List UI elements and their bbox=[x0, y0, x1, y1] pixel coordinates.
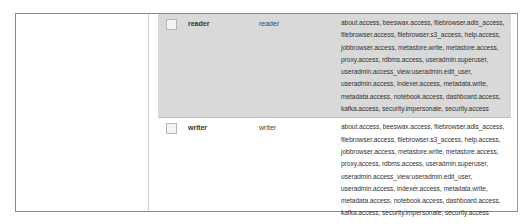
privileges-line: useradmin.access_view:useradmin.edit_use… bbox=[341, 171, 507, 183]
privileges-line: filebrowser.access, filebrowser.s3_acces… bbox=[341, 134, 507, 146]
privileges-line: useradmin.access, indexer.access, metada… bbox=[341, 78, 507, 90]
role-privileges: about.access, beeswax.access, filebrowse… bbox=[341, 118, 511, 221]
privileges-line: kafka.access, security.impersonate, secu… bbox=[341, 207, 507, 219]
roles-panel: reader reader about.access, beeswax.acce… bbox=[15, 13, 518, 212]
role-description: writer bbox=[259, 118, 341, 131]
privileges-line: useradmin.access_view:useradmin.edit_use… bbox=[341, 66, 507, 78]
privileges-line: proxy.access, rdbms.access, useradmin.su… bbox=[341, 158, 507, 170]
privileges-line: jobbrowser.access, metastore.write, meta… bbox=[341, 146, 507, 158]
privileges-line: jobbrowser.access, metastore.write, meta… bbox=[341, 42, 507, 54]
role-name[interactable]: reader bbox=[188, 14, 259, 27]
table-row-reader[interactable]: reader reader about.access, beeswax.acce… bbox=[158, 14, 511, 117]
roles-table: reader reader about.access, beeswax.acce… bbox=[158, 14, 511, 222]
row-checkbox-reader[interactable] bbox=[166, 19, 177, 30]
privileges-line: about.access, beeswax.access, filebrowse… bbox=[341, 121, 507, 133]
row-checkbox-writer[interactable] bbox=[166, 123, 177, 134]
role-privileges: about.access, beeswax.access, filebrowse… bbox=[341, 14, 511, 117]
privileges-line: kafka.access, security.impersonate, secu… bbox=[341, 103, 507, 115]
privileges-line: proxy.access, rdbms.access, useradmin.su… bbox=[341, 54, 507, 66]
table-row-writer[interactable]: writer writer about.access, beeswax.acce… bbox=[158, 117, 511, 221]
privileges-line: metadata.access, notebook.access, dashbo… bbox=[341, 195, 507, 207]
privileges-line: metadata.access, notebook.access, dashbo… bbox=[341, 91, 507, 103]
privileges-line: useradmin.access, indexer.access, metada… bbox=[341, 183, 507, 195]
role-description: reader bbox=[259, 14, 341, 27]
privileges-line: filebrowser.access, filebrowser.s3_acces… bbox=[341, 29, 507, 41]
role-name[interactable]: writer bbox=[188, 118, 259, 131]
privileges-line: about.access, beeswax.access, filebrowse… bbox=[341, 17, 507, 29]
left-panel bbox=[16, 14, 149, 211]
